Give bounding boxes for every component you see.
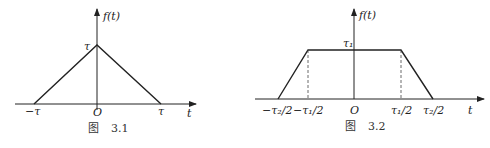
figures-canvas: f(t) τ −τ O τ t 图 3.1 f(t) τ₁ −τ₂/2 −τ₁/… [0,0,490,148]
y-axis-label: f(t) [358,9,376,22]
tick-neg-tau2-half: −τ₂/2 [262,104,292,117]
tick-tau: τ [158,105,165,118]
caption-number: 3.1 [111,122,129,135]
x-axis-label: t [468,104,473,117]
tick-neg-tau: −τ [25,105,41,118]
x-axis-label: t [187,107,192,120]
y-axis-label: f(t) [102,10,120,23]
caption-number: 3.2 [368,120,386,133]
trapezoid-pulse [278,50,433,99]
figure-3-2: f(t) τ₁ −τ₂/2 −τ₁/2 O τ₁/2 τ₂/2 t 图 3.2 [255,9,484,133]
peak-label: τ [84,40,91,53]
caption-prefix: 图 [88,122,99,135]
origin-label: O [93,106,102,119]
tick-tau2-half: τ₂/2 [423,104,444,117]
caption-prefix: 图 [345,120,356,133]
peak-label: τ₁ [343,37,354,50]
tick-neg-tau1-half: −τ₁/2 [293,104,323,117]
origin-label: O [350,104,359,117]
figure-3-1: f(t) τ −τ O τ t 图 3.1 [15,9,196,135]
tick-tau1-half: τ₁/2 [391,104,412,117]
